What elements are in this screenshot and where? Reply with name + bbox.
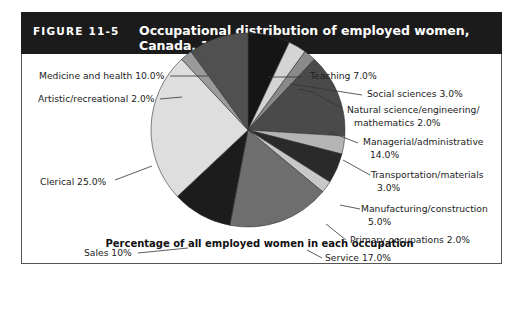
label-transportation-1: Transportation/materials <box>371 169 484 181</box>
pie-chart <box>0 0 519 322</box>
label-artistic: Artistic/recreational 2.0% <box>38 93 155 105</box>
chart-caption: Percentage of all employed women in each… <box>0 238 519 249</box>
label-natural-science-2: mathematics 2.0% <box>354 117 441 129</box>
label-managerial-1: Managerial/administrative <box>363 136 483 148</box>
label-teaching: Teaching 7.0% <box>310 70 377 82</box>
label-medicine: Medicine and health 10.0% <box>39 70 164 82</box>
label-service: Service 17.0% <box>325 252 391 264</box>
label-transportation-2: 3.0% <box>377 182 400 194</box>
label-manufacturing-1: Manufacturing/construction <box>361 203 488 215</box>
label-clerical: Clerical 25.0% <box>40 176 106 188</box>
label-natural-science-1: Natural science/engineering/ <box>347 104 480 116</box>
label-social-sciences: Social sciences 3.0% <box>367 88 463 100</box>
label-managerial-2: 14.0% <box>370 149 399 161</box>
label-manufacturing-2: 5.0% <box>368 216 391 228</box>
